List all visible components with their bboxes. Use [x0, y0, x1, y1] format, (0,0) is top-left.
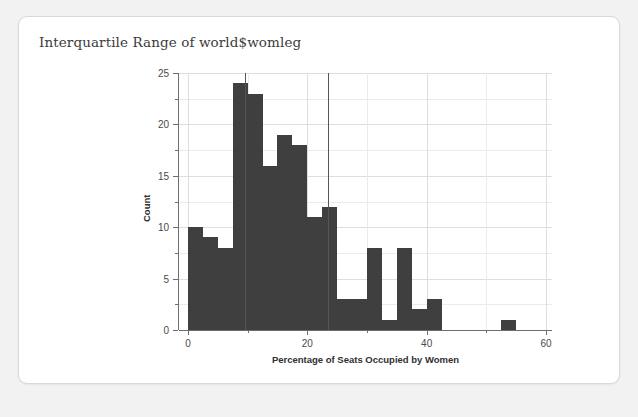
gridline-vertical [546, 73, 547, 330]
y-axis-tick-label: 20 [145, 119, 169, 130]
x-axis-tick [427, 330, 428, 335]
histogram-bar [218, 248, 233, 330]
y-axis-tick [173, 176, 178, 177]
gridline-horizontal [179, 73, 552, 74]
x-axis-tick-minor [248, 330, 249, 333]
histogram-bar [412, 309, 427, 330]
histogram-bar [382, 320, 397, 330]
histogram-bar [277, 135, 292, 330]
histogram-bar [203, 237, 218, 330]
x-axis-tick-label: 20 [302, 338, 313, 349]
chart-card: Interquartile Range of world$womleg Perc… [18, 16, 620, 384]
histogram-bar [292, 145, 307, 330]
histogram-bar [248, 94, 263, 330]
histogram-bar [263, 166, 278, 330]
gridline-vertical-minor [486, 73, 487, 330]
iqr-lower-line [245, 73, 246, 330]
y-axis-tick [173, 279, 178, 280]
x-axis-tick-minor [367, 330, 368, 333]
histogram-plot: Percentage of Seats Occupied by Women Co… [19, 17, 621, 385]
histogram-bar [307, 217, 322, 330]
x-axis-tick-label: 40 [421, 338, 432, 349]
histogram-bar [322, 207, 337, 330]
y-axis-tick-label: 25 [145, 68, 169, 79]
y-axis-tick-minor [175, 99, 179, 100]
y-axis-tick-label: 10 [145, 222, 169, 233]
x-axis-tick [546, 330, 547, 335]
y-axis-tick [173, 330, 178, 331]
y-axis-tick-label: 15 [145, 170, 169, 181]
x-axis-line [179, 330, 552, 331]
y-axis-tick-label: 5 [145, 273, 169, 284]
y-axis-tick [173, 227, 178, 228]
histogram-bar [188, 227, 203, 330]
x-axis-title: Percentage of Seats Occupied by Women [179, 354, 552, 365]
histogram-bar [367, 248, 382, 330]
plot-area [179, 73, 552, 330]
histogram-bar [397, 248, 412, 330]
histogram-bar [501, 320, 516, 330]
y-axis-tick-label: 0 [145, 325, 169, 336]
histogram-bar [352, 299, 367, 330]
y-axis-tick-minor [175, 150, 179, 151]
page-root: Interquartile Range of world$womleg Perc… [0, 0, 638, 417]
y-axis-tick [173, 124, 178, 125]
x-axis-tick-label: 60 [540, 338, 551, 349]
y-axis-tick [173, 73, 178, 74]
y-axis-tick-minor [175, 253, 179, 254]
x-axis-tick-minor [486, 330, 487, 333]
y-axis-tick-minor [175, 202, 179, 203]
x-axis-tick [307, 330, 308, 335]
x-axis-tick [188, 330, 189, 335]
x-axis-tick-label: 0 [185, 338, 191, 349]
histogram-bar [337, 299, 352, 330]
iqr-upper-line [328, 73, 329, 330]
y-axis-title: Count [141, 195, 152, 222]
histogram-bar [427, 299, 442, 330]
gridline-vertical [427, 73, 428, 330]
y-axis-tick-minor [175, 304, 179, 305]
